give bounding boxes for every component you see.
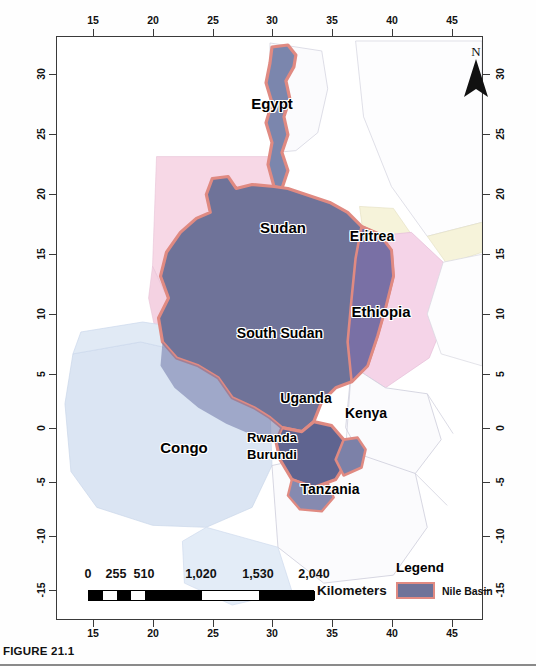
- country-label-south-sudan: South Sudan: [237, 325, 323, 341]
- figure-caption: FIGURE 21.1: [3, 645, 74, 657]
- tick-label-right-8: -10: [494, 525, 506, 547]
- tick-left-2: [49, 194, 56, 195]
- tick-top-1: [153, 29, 154, 36]
- tick-top-5: [392, 29, 393, 36]
- tick-left-6: [49, 428, 56, 429]
- legend-title: Legend: [396, 560, 493, 575]
- scale-seg-6: [259, 591, 315, 600]
- tick-label-left-8: -10: [35, 525, 47, 547]
- tick-left-5: [49, 374, 56, 375]
- scale-bar-units: Kilometers: [317, 583, 387, 598]
- tick-label-bottom-5: 40: [386, 627, 397, 639]
- tick-left-1: [49, 134, 56, 135]
- tick-label-left-6: 0: [35, 417, 47, 439]
- tick-label-left-5: 5: [35, 363, 47, 385]
- tick-right-2: [483, 194, 490, 195]
- scale-seg-5: [202, 591, 259, 600]
- tick-label-left-4: 10: [35, 303, 47, 325]
- tick-label-top-5: 40: [386, 14, 397, 26]
- tick-label-bottom-6: 45: [446, 627, 457, 639]
- country-label-kenya: Kenya: [345, 405, 387, 421]
- tick-top-4: [332, 29, 333, 36]
- tick-label-right-6: 0: [494, 417, 506, 439]
- tick-bottom-0: [93, 620, 94, 627]
- tick-top-3: [272, 29, 273, 36]
- tick-left-7: [49, 482, 56, 483]
- tick-right-4: [483, 314, 490, 315]
- country-label-eritrea: Eritrea: [350, 228, 394, 244]
- country-label-burundi: Burundi: [247, 447, 297, 462]
- country-label-congo: Congo: [160, 439, 207, 456]
- scale-bar: 0 255 510 1,020 1,530 2,040: [88, 567, 314, 607]
- tick-bottom-5: [392, 620, 393, 627]
- tick-label-right-7: -5: [494, 471, 506, 493]
- tick-bottom-1: [153, 620, 154, 627]
- tick-bottom-4: [332, 620, 333, 627]
- north-arrow: N: [456, 44, 496, 100]
- tick-label-right-3: 15: [494, 243, 506, 265]
- scale-label-3: 1,020: [185, 567, 216, 581]
- scale-bar-track: [88, 590, 314, 601]
- scale-seg-3: [131, 591, 145, 600]
- tick-label-right-9: -15: [494, 579, 506, 601]
- tick-label-top-4: 35: [326, 14, 337, 26]
- tick-bottom-2: [213, 620, 214, 627]
- tick-label-bottom-3: 30: [266, 627, 277, 639]
- tick-right-1: [483, 134, 490, 135]
- tick-left-0: [49, 74, 56, 75]
- figure-root: 15 20 25 30 35 40 45 15 20 25 30 35 40 4…: [0, 0, 536, 670]
- tick-label-bottom-0: 15: [87, 627, 98, 639]
- tick-label-right-4: 10: [494, 303, 506, 325]
- tick-top-2: [213, 29, 214, 36]
- tick-label-left-0: 30: [35, 63, 47, 85]
- tick-bottom-6: [452, 620, 453, 627]
- tick-right-8: [483, 536, 490, 537]
- tick-right-6: [483, 428, 490, 429]
- tick-top-6: [452, 29, 453, 36]
- scale-seg-2: [117, 591, 131, 600]
- tick-label-top-6: 45: [446, 14, 457, 26]
- tick-bottom-3: [272, 620, 273, 627]
- tick-right-7: [483, 482, 490, 483]
- tick-top-0: [93, 29, 94, 36]
- north-arrow-icon: [463, 59, 489, 99]
- tick-label-top-3: 30: [266, 14, 277, 26]
- tick-label-top-0: 15: [87, 14, 98, 26]
- north-arrow-letter: N: [456, 44, 496, 60]
- country-label-tanzania: Tanzania: [301, 481, 360, 497]
- tick-label-right-2: 20: [494, 183, 506, 205]
- tick-label-left-2: 20: [35, 183, 47, 205]
- caption-rule: [0, 664, 536, 666]
- scale-label-4: 1,530: [242, 567, 273, 581]
- legend-item-nile-basin: Nile Basin: [396, 582, 493, 599]
- tick-left-4: [49, 314, 56, 315]
- tick-label-left-3: 15: [35, 243, 47, 265]
- scale-seg-4: [145, 591, 202, 600]
- scale-label-1: 255: [106, 567, 127, 581]
- tick-right-5: [483, 374, 490, 375]
- country-label-uganda: Uganda: [280, 390, 331, 406]
- legend-label-nile-basin: Nile Basin: [442, 585, 493, 597]
- scale-label-5: 2,040: [298, 567, 329, 581]
- scale-label-2: 510: [134, 567, 155, 581]
- tick-left-8: [49, 536, 56, 537]
- country-label-sudan: Sudan: [260, 219, 306, 236]
- scale-seg-0: [89, 591, 103, 600]
- tick-left-3: [49, 254, 56, 255]
- scale-label-0: 0: [85, 567, 92, 581]
- tick-label-left-1: 25: [35, 123, 47, 145]
- tick-right-3: [483, 254, 490, 255]
- country-label-egypt: Egypt: [251, 95, 293, 112]
- tick-label-right-1: 25: [494, 123, 506, 145]
- tick-label-top-1: 20: [147, 14, 158, 26]
- country-label-rwanda: Rwanda: [247, 430, 297, 445]
- tick-label-left-9: -15: [35, 579, 47, 601]
- tick-label-right-5: 5: [494, 363, 506, 385]
- tick-left-9: [49, 590, 56, 591]
- legend: Legend Nile Basin: [396, 560, 493, 599]
- tick-label-top-2: 25: [207, 14, 218, 26]
- tick-label-bottom-2: 25: [207, 627, 218, 639]
- legend-swatch-nile-basin: [396, 582, 435, 599]
- tick-label-bottom-1: 20: [147, 627, 158, 639]
- country-label-ethiopia: Ethiopia: [351, 303, 410, 320]
